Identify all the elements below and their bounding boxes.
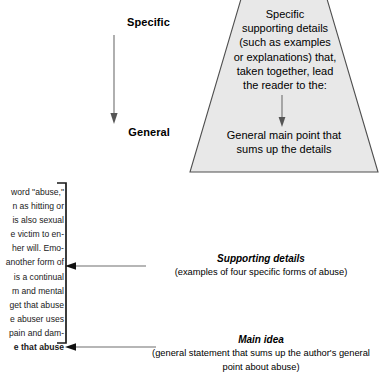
downward-arrow [108, 35, 120, 125]
supporting-details-subtitle: (examples of four specific forms of abus… [140, 266, 382, 279]
pyramid-top-line-2: supporting details [242, 22, 328, 34]
excerpt-paragraph: word "abuse," n as hitting or is also se… [0, 185, 64, 354]
pyramid-bottom-line-2: sums up the details [237, 143, 332, 155]
pyramid-bottom-line-1: General main point that [227, 129, 341, 141]
axis-label-general: General [0, 126, 170, 138]
pyramid-diagram: Specific supporting details (such as exa… [188, 0, 380, 174]
excerpt-line: e victim to en- [0, 227, 64, 241]
excerpt-line: n as hitting or [0, 199, 64, 213]
pyramid-downward-arrow [276, 95, 288, 128]
pyramid-top-line-1: Specific [266, 8, 305, 20]
main-idea-title: Main idea [140, 333, 382, 346]
excerpt-line: pain and dam- [0, 326, 64, 340]
excerpt-line: is a continual [0, 270, 64, 284]
excerpt-line: another form of [0, 255, 64, 269]
pyramid-top-line-6: the reader to the: [243, 79, 327, 91]
pyramid-top-line-5: taken together, lead [237, 65, 334, 77]
excerpt-line: her will. Emo- [0, 241, 64, 255]
main-idea-subtitle-line-2: point about abuse) [140, 361, 382, 374]
main-idea-callout: Main idea (general statement that sums u… [140, 333, 382, 373]
excerpt-line: e abuser uses [0, 312, 64, 326]
excerpt-line: word "abuse," [0, 185, 64, 199]
supporting-details-callout: Supporting details (examples of four spe… [140, 252, 382, 279]
excerpt-line: e that abuse [0, 340, 64, 354]
main-idea-subtitle-line-1: (general statement that sums up the auth… [140, 347, 382, 360]
pyramid-top-line-4: or explanations) that, [234, 51, 337, 63]
excerpt-line: get that abuse [0, 298, 64, 312]
supporting-details-arrow [64, 258, 146, 270]
excerpt-line: m and mental [0, 284, 64, 298]
excerpt-line: is also sexual [0, 213, 64, 227]
axis-label-specific: Specific [0, 16, 170, 28]
supporting-details-title: Supporting details [140, 252, 382, 265]
pyramid-top-text: Specific supporting details (such as exa… [216, 7, 354, 92]
pyramid-bottom-text: General main point that sums up the deta… [198, 128, 370, 156]
pyramid-top-line-3: (such as examples [239, 36, 331, 48]
diagram-canvas: Specific General Specific supporting det… [0, 0, 382, 379]
